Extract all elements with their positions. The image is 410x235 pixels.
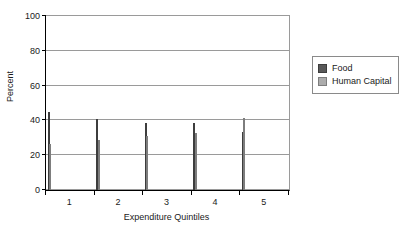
legend-label: Human Capital <box>332 77 392 86</box>
x-tick-mark <box>94 190 95 195</box>
legend-item: Human Capital <box>318 75 392 88</box>
y-axis-title: Percent <box>6 71 15 102</box>
bar-group <box>143 16 192 190</box>
y-tick-label: 40 <box>30 116 40 125</box>
x-tick-label: 1 <box>67 198 72 207</box>
chart-page: Percent 020406080100 12345 Expenditure Q… <box>0 0 410 235</box>
bar <box>146 136 148 190</box>
legend-label: Food <box>332 64 353 73</box>
y-tick-label: 60 <box>30 81 40 90</box>
x-tick-mark <box>288 190 289 195</box>
x-tick-mark <box>239 190 240 195</box>
x-axis-title: Expenditure Quintiles <box>45 213 288 222</box>
bar <box>243 118 245 190</box>
legend: FoodHuman Capital <box>312 56 399 94</box>
bar <box>195 133 197 190</box>
x-tick-label: 3 <box>164 198 169 207</box>
x-tick-mark <box>45 190 46 195</box>
bar <box>49 144 51 190</box>
y-tick-label: 100 <box>25 12 40 21</box>
y-tick-label: 20 <box>30 151 40 160</box>
y-tick-label: 80 <box>30 46 40 55</box>
legend-swatch <box>318 77 327 86</box>
bar <box>98 140 100 190</box>
plot-area: 020406080100 <box>45 15 290 191</box>
x-tick-label: 2 <box>115 198 120 207</box>
x-tick-label: 5 <box>261 198 266 207</box>
legend-item: Food <box>318 62 392 75</box>
bar-group <box>95 16 144 190</box>
y-tick-label: 0 <box>35 186 40 195</box>
x-tick-mark <box>191 190 192 195</box>
bar-group <box>192 16 241 190</box>
legend-swatch <box>318 64 327 73</box>
bar-group <box>240 16 289 190</box>
x-axis: 12345 <box>45 190 288 196</box>
x-tick-mark <box>142 190 143 195</box>
bar-group <box>46 16 95 190</box>
bars-layer <box>46 16 289 190</box>
x-tick-label: 4 <box>213 198 218 207</box>
